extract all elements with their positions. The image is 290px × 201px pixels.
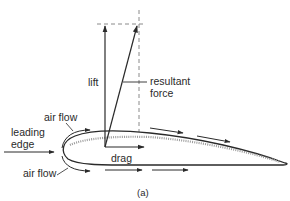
airfoil-outline xyxy=(63,131,287,165)
resultant-force-label: resultant xyxy=(150,75,190,87)
resultant-force-label-line2: force xyxy=(150,87,174,99)
force-vectors xyxy=(105,26,147,147)
resultant-force-arrow xyxy=(105,26,137,147)
leading-edge-label-line2: edge xyxy=(11,138,35,150)
airfoil-force-diagram: lift resultant force drag air flow air f… xyxy=(0,0,290,201)
bottom-air-flow-leader xyxy=(57,168,68,175)
drag-label: drag xyxy=(111,152,132,164)
top-air-flow-leader xyxy=(66,123,73,131)
top-air-flow-label: air flow xyxy=(44,111,78,123)
figure-caption: (a) xyxy=(137,187,149,198)
leading-edge-label: leading xyxy=(11,126,45,138)
bottom-air-flow-label: air flow xyxy=(23,167,57,179)
lift-label: lift xyxy=(88,76,99,88)
airfoil xyxy=(63,131,287,165)
construction-lines xyxy=(97,10,146,148)
top-flow-arrow-1 xyxy=(150,128,183,133)
